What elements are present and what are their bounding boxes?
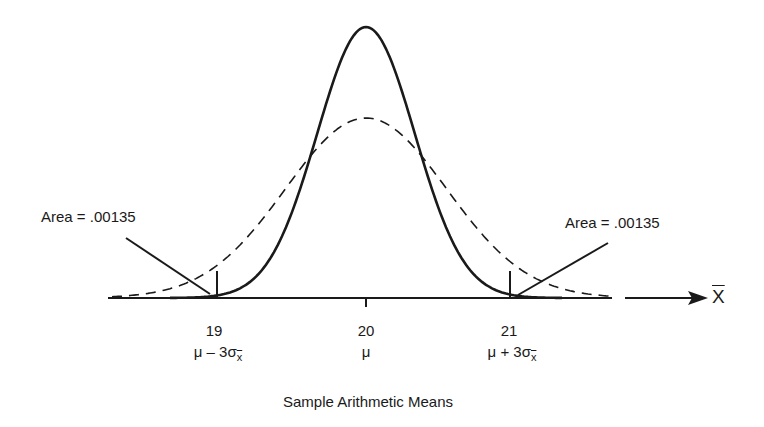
right-area-leader [518, 243, 608, 295]
tick-label-20: 20 [358, 322, 375, 339]
x-axis-title: Sample Arithmetic Means [283, 393, 453, 410]
sigma-subscript: x [237, 351, 243, 363]
dashed-population-curve [112, 118, 612, 297]
sublabel-text: μ + 3σ [488, 343, 531, 360]
sublabel-mu-minus-3sigma: μ – 3σx [194, 343, 242, 363]
left-area-label: Area = .00135 [41, 208, 136, 225]
right-area-label: Area = .00135 [565, 214, 660, 231]
tick-label-21: 21 [501, 322, 518, 339]
solid-sampling-curve [170, 27, 562, 298]
x-bar-symbol: X [712, 286, 725, 308]
sublabel-mu-plus-3sigma: μ + 3σx [488, 343, 537, 363]
sigma-subscript: x [531, 351, 537, 363]
left-area-leader [126, 238, 210, 294]
sublabel-text: μ – 3σ [194, 343, 237, 360]
tick-label-19: 19 [206, 322, 223, 339]
sublabel-mu: μ [362, 343, 371, 360]
x-bar-text: X [712, 286, 725, 307]
